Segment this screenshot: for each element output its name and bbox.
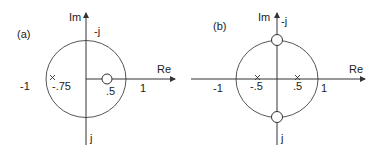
panel-a — [46, 13, 175, 145]
panel-label-b: (b) — [213, 21, 226, 32]
pole-label-a: -.75 — [52, 81, 71, 92]
re-axis-label-b: Re — [349, 64, 363, 75]
tick-neg-one-b: -1 — [213, 83, 223, 94]
re-axis-label-a: Re — [157, 64, 171, 75]
tick-j-b: j — [281, 133, 283, 144]
zero-label-a: .5 — [106, 86, 115, 97]
panel-label-a: (a) — [17, 29, 30, 40]
tick-neg-j-b: -j — [281, 16, 287, 27]
panel-b — [191, 13, 365, 145]
pole-label-b-left: -.5 — [250, 81, 263, 92]
pole-zero-diagrams — [0, 0, 382, 155]
tick-one-a: 1 — [140, 83, 146, 94]
pole-label-b-right: .5 — [293, 81, 302, 92]
zero-marker-b-bottom — [272, 112, 283, 123]
zero-marker-a — [102, 74, 112, 84]
zero-marker-b-top — [272, 35, 283, 46]
tick-one-b: 1 — [321, 83, 327, 94]
tick-j-a: j — [90, 133, 92, 144]
tick-neg-one-a: -1 — [20, 81, 30, 92]
im-axis-label-b: Im — [258, 12, 270, 23]
tick-neg-j-a: -j — [94, 26, 100, 37]
im-axis-label-a: Im — [69, 12, 81, 23]
